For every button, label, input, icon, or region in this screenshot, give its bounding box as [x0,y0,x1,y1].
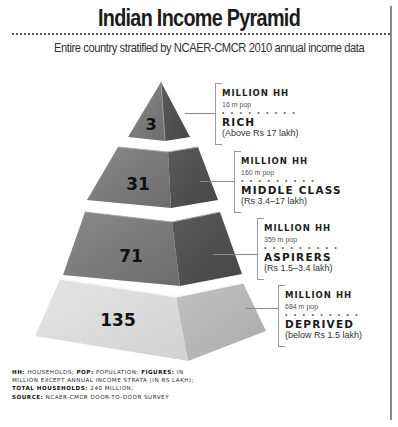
population: 684 m pop [285,303,362,310]
footnote-pop-key: POP: [76,369,93,375]
bracket [234,151,241,213]
income-range: (below Rs 1.5 lakh) [285,331,362,340]
dot-divider: • • • • • • • • • [285,311,362,318]
footnote-source-text: NCAER-CMCR DOOR-TO-DOOR SURVEY [43,394,169,400]
tier-aspirers: 71 [63,212,242,286]
unit-label: MILLION HH [241,157,342,166]
population: 359 m pop [264,236,339,243]
income-range: (Rs 3.4–17 lakh) [241,197,342,206]
footnote-total-text: 240 MILLION; [88,385,134,391]
connector-line [213,254,257,255]
footnote-hh-text: HOUSEHOLDS; [25,369,76,375]
connector-line [200,181,234,182]
unit-label: MILLION HH [222,89,299,98]
tier-label: ASPIRERS [264,252,339,263]
income-range: (Rs 1.5–3.4 lakh) [264,264,339,273]
unit-label: MILLION HH [285,291,362,300]
tier-value-aspirers: 71 [119,246,143,266]
footnote-hh-key: HH: [12,369,25,375]
tier-value-middle-class: 31 [126,174,150,194]
unit-label: MILLION HH [264,224,339,233]
tier-value-rich: 3 [145,115,156,134]
income-range: (Above Rs 17 lakh) [222,129,299,138]
tier-label: RICH [222,117,299,128]
tier-middle-class: 31 [87,147,218,208]
footnote-figures-key: FIGURES: [141,369,174,375]
bracket [215,83,222,145]
tier-deprived: 135 [35,279,266,361]
income-pyramid: 135 71 31 3 [0,0,398,427]
tier-rich: 3 [128,82,190,141]
dot-divider: • • • • • • • • • [264,244,339,251]
connector-line [246,308,278,309]
footnote-total-key: TOTAL HOUSEHOLDS: [12,385,88,391]
bracket [257,218,264,280]
tier-label: DEPRIVED [285,319,362,330]
tier-value-deprived: 135 [100,310,136,330]
connector-line [185,113,215,114]
dot-divider: • • • • • • • • • [241,177,342,184]
dot-divider: • • • • • • • • • [222,109,299,116]
population: 16 m pop [222,101,299,108]
footnote-source-key: SOURCE: [12,394,43,400]
footnote: HH: HOUSEHOLDS; POP: POPULATION; FIGURES… [12,368,202,401]
tier-label: MIDDLE CLASS [241,185,342,196]
population: 160 m pop [241,169,342,176]
bracket [278,285,285,347]
footnote-pop-text: POPULATION; [94,369,141,375]
